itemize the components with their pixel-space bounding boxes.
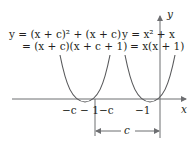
- parabola-shift-diagram: y = (x + c)² + (x + c) = (x + c)(x + c +…: [0, 0, 189, 147]
- right-eq-line2: = x(x + 1): [130, 40, 184, 52]
- left-eq-line1: y = (x + c)² + (x + c): [8, 28, 121, 40]
- tick-label-minus-c-minus-1: −c − 1: [62, 104, 99, 116]
- right-parabola: [125, 55, 175, 102]
- shift-label: c: [124, 124, 130, 136]
- tick-label-minus-1: −1: [135, 104, 150, 116]
- y-axis-label: y: [166, 8, 174, 20]
- left-eq-line2: = (x + c)(x + c + 1): [22, 40, 127, 52]
- left-parabola: [60, 55, 110, 102]
- x-axis-label: x: [181, 103, 187, 115]
- right-eq-line1: y = x² + x: [121, 28, 175, 40]
- tick-label-minus-c: −c: [99, 104, 114, 116]
